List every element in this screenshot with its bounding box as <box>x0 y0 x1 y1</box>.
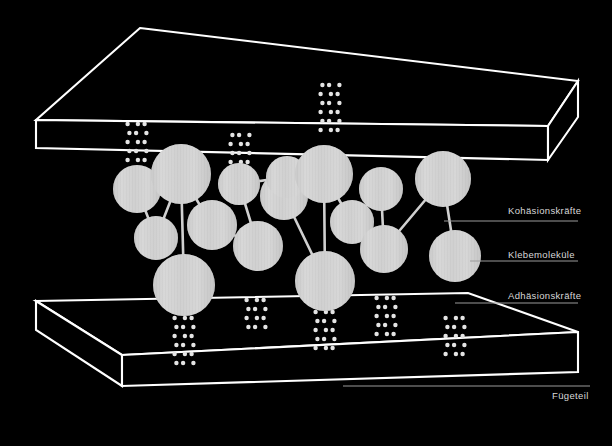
adhesive-molecules <box>113 144 481 316</box>
adhesion-dot <box>245 160 249 164</box>
adhesion-dot <box>142 158 146 162</box>
label-klebemolekuele: Klebemoleküle <box>508 249 575 261</box>
adhesion-dot <box>329 128 333 132</box>
adhesion-dot <box>181 325 185 329</box>
adhesion-dot <box>183 352 187 356</box>
adhesion-dot <box>230 151 234 155</box>
molecule-texture <box>360 225 408 273</box>
adhesion-dot <box>245 142 249 146</box>
adhesion-dot <box>181 343 185 347</box>
adhesive-molecule <box>233 221 283 271</box>
adhesive-molecule <box>359 167 403 211</box>
adhesion-dot <box>189 352 193 356</box>
molecule-texture <box>429 230 481 282</box>
adhesion-dot <box>391 332 395 336</box>
label-kohaesionskraefte: Kohäsionskräfte <box>508 205 581 217</box>
adhesion-dot <box>253 325 257 329</box>
adhesion-dot <box>315 337 319 341</box>
adhesion-dot <box>189 334 193 338</box>
adhesion-dot <box>127 131 131 135</box>
adhesion-dot <box>253 307 257 311</box>
adhesion-dot <box>337 119 341 123</box>
adhesion-dot <box>460 316 464 320</box>
adhesion-dot <box>174 325 178 329</box>
molecule-texture <box>415 151 471 207</box>
adhesive-molecule <box>295 251 355 311</box>
adhesion-dot <box>462 343 466 347</box>
adhesion-dot <box>335 110 339 114</box>
adhesion-dot <box>330 346 334 350</box>
adhesion-dot <box>261 298 265 302</box>
adhesion-dot <box>228 160 232 164</box>
adhesion-dot <box>454 352 458 356</box>
adhesion-dot <box>337 83 341 87</box>
adhesion-dot <box>385 314 389 318</box>
adhesion-dot <box>335 92 339 96</box>
adhesive-molecule <box>360 225 408 273</box>
adhesion-dot <box>313 310 317 314</box>
adhesive-molecule <box>429 230 481 282</box>
adhesion-dot <box>244 298 248 302</box>
adhesion-dot <box>324 346 328 350</box>
adhesion-dot <box>391 314 395 318</box>
adhesion-dot <box>327 101 331 105</box>
upper-substrate-plate-front-face <box>36 120 548 160</box>
adhesive-molecule <box>187 200 237 250</box>
adhesion-dot <box>452 325 456 329</box>
adhesion-dot <box>322 319 326 323</box>
adhesion-dot <box>329 92 333 96</box>
adhesion-dot <box>462 325 466 329</box>
adhesion-dot <box>335 128 339 132</box>
adhesion-dot <box>374 296 378 300</box>
adhesion-dot <box>172 316 176 320</box>
adhesion-dot <box>454 316 458 320</box>
molecule-texture <box>153 254 215 316</box>
adhesion-dot <box>125 122 129 126</box>
lower-substrate-plate <box>36 293 578 386</box>
adhesive-molecule <box>153 254 215 316</box>
adhesive-molecule <box>415 151 471 207</box>
adhesion-dot <box>239 142 243 146</box>
adhesion-dot <box>320 83 324 87</box>
adhesion-dot <box>174 361 178 365</box>
adhesion-dot <box>228 142 232 146</box>
adhesion-dot <box>127 149 131 153</box>
adhesion-dot <box>324 328 328 332</box>
adhesion-dot <box>315 319 319 323</box>
adhesion-dot <box>318 92 322 96</box>
adhesion-dot <box>332 337 336 341</box>
adhesion-dot <box>136 158 140 162</box>
adhesion-dot <box>125 158 129 162</box>
adhesion-dot <box>144 149 148 153</box>
adhesion-dot <box>376 323 380 327</box>
adhesion-dot <box>237 151 241 155</box>
adhesion-dot <box>142 122 146 126</box>
adhesion-dot <box>445 343 449 347</box>
molecule-texture <box>295 145 353 203</box>
adhesion-dot <box>255 298 259 302</box>
label-adhaesionskraefte: Adhäsionskräfte <box>508 290 581 302</box>
adhesion-dot <box>134 149 138 153</box>
substrate-plates <box>36 28 578 386</box>
adhesion-dot <box>385 332 389 336</box>
adhesion-dot <box>322 337 326 341</box>
adhesion-dot <box>445 325 449 329</box>
adhesion-dot <box>183 316 187 320</box>
adhesion-dot <box>237 133 241 137</box>
adhesion-dot <box>383 323 387 327</box>
adhesion-dot <box>261 316 265 320</box>
diagram-canvas: Kohäsionskräfte Klebemoleküle Adhäsionsk… <box>0 0 612 446</box>
upper-substrate-plate-top-face <box>36 28 578 126</box>
adhesion-dot <box>181 361 185 365</box>
upper-substrate-plate <box>36 28 578 160</box>
adhesion-dot <box>443 352 447 356</box>
molecule-texture <box>295 251 355 311</box>
adhesion-dot <box>189 316 193 320</box>
adhesion-dot <box>263 325 267 329</box>
adhesion-dot <box>142 140 146 144</box>
adhesion-dot <box>191 325 195 329</box>
adhesion-dot <box>393 323 397 327</box>
adhesion-dot <box>244 316 248 320</box>
adhesion-dot <box>327 83 331 87</box>
adhesion-dot <box>136 140 140 144</box>
